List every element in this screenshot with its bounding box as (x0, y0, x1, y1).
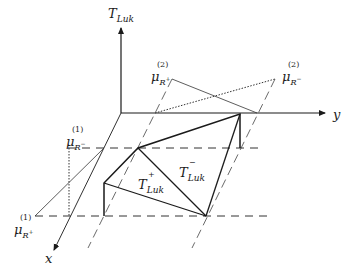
mu-r-minus-1-label: μ(1)R− (66, 133, 86, 149)
t-axis-label-sub: Luk (117, 14, 134, 24)
mu-sub-sup: + (165, 75, 170, 82)
t-axis-label-base: T (108, 6, 117, 21)
t-axis-label: TLuk (108, 7, 134, 20)
x-axis-label: x (45, 252, 52, 265)
t-base: T (138, 177, 147, 192)
t-sup: − (189, 159, 196, 167)
mu-sup: (1) (72, 126, 83, 134)
t-sub: Luk (147, 185, 164, 195)
surface-edge-3 (206, 114, 240, 216)
mu-r-minus-2-label: μ(2)R− (282, 68, 302, 84)
t-base: T (179, 165, 188, 180)
mu-sup: (1) (20, 214, 31, 222)
diagram-svg (0, 0, 349, 269)
mu-sub-sup: − (296, 75, 301, 82)
surface-outline (104, 114, 240, 216)
t-luk-minus-label: T−Luk (179, 164, 205, 180)
t-sub: Luk (188, 173, 205, 183)
slanted-dashed-left (88, 79, 172, 248)
mu-sub-sup: + (28, 228, 33, 235)
thin-line-top (172, 79, 257, 113)
diagram-canvas: TLuk y x μ(2)R+ μ(2)R− μ(1)R− μ(1)R+ T+L… (0, 0, 349, 269)
y-axis-label: y (333, 108, 340, 121)
mu-r-plus-2-label: μ(2)R+ (151, 68, 171, 84)
mu-sub-sup: − (80, 140, 85, 147)
t-luk-plus-label: T+Luk (138, 176, 164, 192)
t-sup: + (148, 171, 155, 179)
x-axis (54, 113, 121, 250)
mu-sup: (2) (288, 61, 299, 69)
mu-sup: (2) (157, 61, 168, 69)
mu-r-plus-1-label: μ(1)R+ (14, 221, 34, 237)
